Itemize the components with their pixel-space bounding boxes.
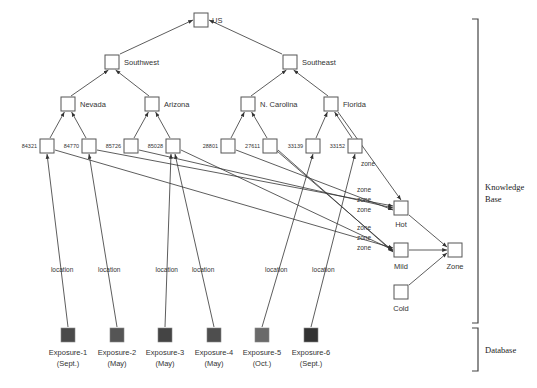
location-edge-label: location	[192, 266, 215, 273]
zip-label-85028: 85028	[148, 143, 163, 149]
node-label-ncarolina: N. Carolina	[260, 100, 298, 109]
location-edge-label: location	[51, 266, 74, 273]
hierarchy-edge	[134, 112, 148, 138]
location-edge-label: location	[265, 266, 288, 273]
node-southeast	[283, 55, 297, 69]
zip-label-85726: 85726	[106, 143, 121, 149]
exposure-name-1: Exposure-1	[49, 348, 87, 357]
database-bracket	[472, 328, 478, 371]
zip-label-84321: 84321	[22, 143, 37, 149]
node-zone-mild	[394, 243, 408, 257]
location-edge	[165, 154, 171, 327]
exposure-square-5	[255, 328, 269, 342]
exposure-square-6	[304, 328, 318, 342]
zone-label-cold: Cold	[393, 304, 408, 313]
zone-edge-label: zone	[357, 196, 371, 203]
node-zip-27611	[263, 139, 277, 153]
hierarchy-edge	[116, 70, 149, 96]
node-zip-85726	[124, 139, 138, 153]
zone-edge-label: zone	[357, 206, 371, 213]
zip-label-33139: 33139	[288, 143, 303, 149]
node-label-florida: Florida	[343, 100, 367, 109]
zone-root-label: Zone	[446, 262, 463, 271]
edge-labels-layer: zonezonezonezonezonezonezonelocationloca…	[51, 160, 376, 273]
node-zone-hot	[394, 201, 408, 215]
knowledge-base-diagram: zonezonezonezonezonezonezonelocationloca…	[0, 0, 537, 388]
knowledge-base-label-line2: Base	[485, 194, 502, 204]
exposure-month-6: (Sept.)	[300, 359, 323, 368]
exposure-name-2: Exposure-2	[98, 348, 136, 357]
node-florida	[324, 97, 338, 111]
hierarchy-edge	[335, 112, 352, 138]
zone-edge-label: zone	[357, 224, 371, 231]
exposure-month-5: (Oct.)	[253, 359, 272, 368]
node-ncarolina	[241, 97, 255, 111]
zip-label-33152: 33152	[330, 143, 345, 149]
zone-edge-label: zone	[357, 186, 371, 193]
zone-edge	[55, 150, 393, 248]
node-label-arizona: Arizona	[164, 100, 190, 109]
node-zip-85028	[166, 139, 180, 153]
exposure-square-3	[158, 328, 172, 342]
knowledge-base-bracket	[472, 19, 478, 323]
location-edge	[311, 154, 355, 327]
exposure-name-3: Exposure-3	[146, 348, 184, 357]
node-zip-84321	[40, 139, 54, 153]
exposure-square-4	[207, 328, 221, 342]
node-zone-cold	[394, 285, 408, 299]
node-label-southwest: Southwest	[124, 58, 160, 67]
zone-label-mild: Mild	[394, 262, 408, 271]
zone-edge	[139, 150, 393, 208]
node-zip-33139	[306, 139, 320, 153]
hierarchy-edge	[120, 20, 193, 54]
location-edge-label: location	[98, 266, 121, 273]
hierarchy-edge	[72, 112, 86, 138]
exposure-square-2	[110, 328, 124, 342]
zone-hierarchy-edge	[409, 253, 447, 285]
hierarchy-edge	[50, 112, 64, 138]
location-edge	[175, 154, 214, 327]
zip-label-28801: 28801	[203, 143, 218, 149]
node-zip-84770	[82, 139, 96, 153]
hierarchy-edge	[71, 70, 108, 96]
zone-edge-label: zone	[357, 244, 371, 251]
hierarchy-edge	[231, 112, 244, 138]
node-label-us: US	[212, 16, 222, 25]
knowledge-base-label-line1: Knowledge	[485, 182, 524, 192]
location-edge-label: location	[312, 266, 335, 273]
hierarchy-edge	[252, 112, 267, 138]
exposure-month-4: (May)	[204, 359, 224, 368]
node-arizona	[145, 97, 159, 111]
location-edge	[47, 154, 68, 327]
node-label-southeast: Southeast	[302, 58, 337, 67]
node-nevada	[61, 97, 75, 111]
exposure-name-6: Exposure-6	[292, 348, 330, 357]
hierarchy-edge	[209, 20, 282, 54]
hierarchy-edge	[251, 70, 286, 96]
hierarchy-edge	[156, 112, 170, 138]
location-edge-label: location	[155, 266, 178, 273]
zone-label-hot: Hot	[395, 220, 408, 229]
exposure-name-5: Exposure-5	[243, 348, 281, 357]
hierarchy-edge	[294, 70, 328, 96]
node-us	[194, 13, 208, 27]
node-zip-33152	[348, 139, 362, 153]
hierarchy-edge	[316, 112, 327, 138]
exposure-month-2: (May)	[107, 359, 127, 368]
node-zip-28801	[221, 139, 235, 153]
exposure-month-3: (May)	[155, 359, 175, 368]
node-southwest	[105, 55, 119, 69]
node-zone-root	[448, 243, 462, 257]
zone-edge-label: zone	[357, 234, 371, 241]
location-edge	[89, 154, 117, 327]
exposure-square-1	[61, 328, 75, 342]
zone-edge	[277, 151, 393, 251]
database-label: Database	[485, 345, 516, 355]
exposure-name-4: Exposure-4	[195, 348, 233, 357]
zip-label-27611: 27611	[245, 143, 260, 149]
zone-edge-label: zone	[361, 160, 375, 167]
nodes-layer: USSouthwestSoutheastNevadaArizonaN. Caro…	[22, 13, 464, 368]
node-label-nevada: Nevada	[80, 100, 107, 109]
zip-label-84770: 84770	[64, 143, 79, 149]
exposure-month-1: (Sept.)	[57, 359, 80, 368]
